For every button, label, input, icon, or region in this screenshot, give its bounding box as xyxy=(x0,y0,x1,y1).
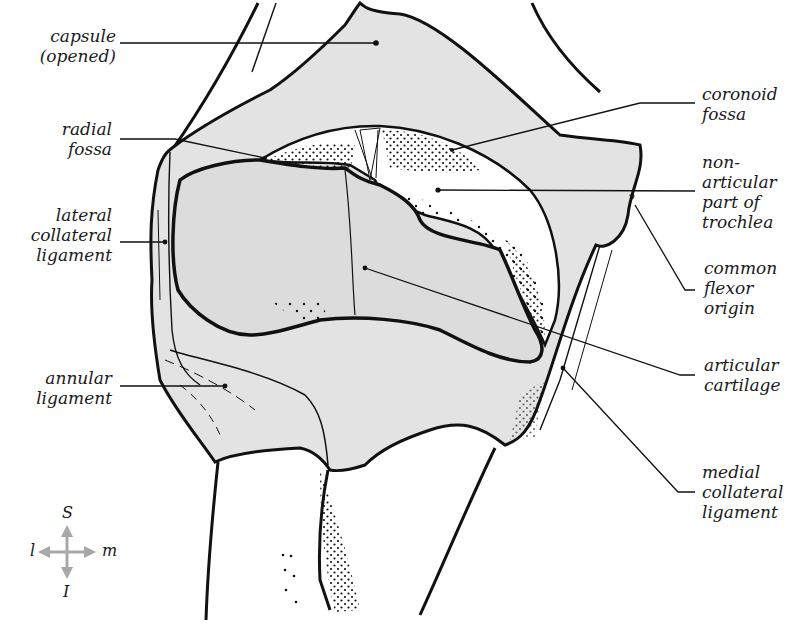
elbow-anatomy-diagram: ? xyxy=(0,0,802,639)
label-articular-cartilage: articular cartilage xyxy=(704,355,781,395)
label-line: common xyxy=(704,258,777,278)
label-line: ligament xyxy=(36,388,112,408)
label-line: capsule xyxy=(40,26,116,46)
humerus-medial-border xyxy=(532,3,600,92)
compass-superior: S xyxy=(62,503,73,522)
compass-rose xyxy=(38,525,96,579)
label-line: non- xyxy=(702,152,777,172)
label-radial-fossa: radial fossa xyxy=(62,119,112,159)
label-line: origin xyxy=(704,298,777,318)
label-line: lateral xyxy=(31,205,112,225)
ulna-shaft xyxy=(420,448,495,615)
compass-inferior: I xyxy=(63,582,69,601)
compass-medial: m xyxy=(102,541,117,560)
label-lateral-collateral-ligament: lateral collateral ligament xyxy=(31,205,112,265)
label-line: articular xyxy=(704,355,781,375)
radius-shaft xyxy=(206,462,218,620)
label-line: collateral xyxy=(31,225,112,245)
label-line: cartilage xyxy=(704,375,781,395)
label-line: trochlea xyxy=(702,212,777,232)
humerus-inner-line xyxy=(252,3,276,72)
label-line: flexor xyxy=(704,278,777,298)
label-nonarticular-trochlea: non- articular part of trochlea xyxy=(702,152,777,232)
label-line: collateral xyxy=(702,482,783,502)
label-line: coronoid xyxy=(702,84,778,104)
label-line: (opened) xyxy=(40,46,116,66)
label-line: radial xyxy=(62,119,112,139)
label-annular-ligament: annular ligament xyxy=(36,368,112,408)
label-common-flexor-origin: common flexor origin xyxy=(704,258,777,318)
label-coronoid-fossa: coronoid fossa xyxy=(702,84,778,124)
label-line: fossa xyxy=(62,139,112,159)
label-line: ligament xyxy=(702,502,783,522)
label-capsule-opened: capsule (opened) xyxy=(40,26,116,66)
label-line: ligament xyxy=(31,245,112,265)
label-medial-collateral-ligament: medial collateral ligament xyxy=(702,462,783,522)
svg-text:?: ? xyxy=(628,193,635,207)
label-line: annular xyxy=(36,368,112,388)
label-line: medial xyxy=(702,462,783,482)
label-line: fossa xyxy=(702,104,778,124)
label-line: articular xyxy=(702,172,777,192)
label-line: part of xyxy=(702,192,777,212)
compass-lateral: l xyxy=(30,541,35,560)
